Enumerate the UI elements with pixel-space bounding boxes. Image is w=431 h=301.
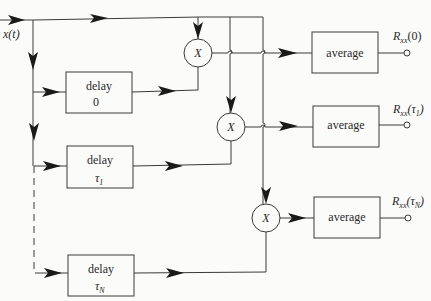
svg-text:X: X — [261, 211, 270, 225]
output-terminal-icon — [404, 122, 410, 128]
average-block-2: average Rxx(τN) — [314, 194, 424, 238]
delay-value: 0 — [93, 95, 99, 109]
output-label: Rxx(0) — [392, 29, 421, 45]
svg-text:X: X — [193, 46, 202, 60]
delay-block-0: delay 0 — [66, 67, 198, 113]
arrow-down-icon — [226, 96, 236, 113]
arrow-right-icon — [165, 161, 183, 171]
arrow-right-icon — [279, 121, 298, 131]
autocorrelation-block-diagram: x(t) delay 0 — [0, 0, 431, 301]
multiplier-0: X — [184, 39, 312, 67]
output-terminal-icon — [405, 215, 411, 221]
delay-title: delay — [86, 79, 112, 93]
svg-text:average: average — [326, 46, 363, 60]
left-bus — [28, 20, 68, 278]
delay-title: delay — [87, 153, 113, 167]
output-label: Rxx(τN) — [391, 194, 424, 210]
delay-block-tau1: delay τ1 — [67, 141, 231, 188]
multiplier-2: X — [252, 204, 314, 232]
svg-text:average: average — [327, 118, 364, 132]
delay-title: delay — [88, 262, 114, 276]
output-terminal-icon — [404, 50, 410, 56]
average-block-1: average Rxx(τ1) — [313, 102, 424, 147]
svg-text:average: average — [328, 210, 365, 224]
arrow-down-icon — [29, 123, 39, 141]
svg-text:X: X — [226, 120, 235, 134]
average-block-0: average Rxx(0) — [312, 29, 421, 73]
input-signal: x(t) — [0, 15, 33, 41]
input-label: x(t) — [2, 27, 20, 41]
delay-block-tauN: delay τN — [68, 232, 266, 296]
multiplier-1: X — [217, 113, 313, 141]
output-label: Rxx(τ1) — [392, 102, 424, 118]
